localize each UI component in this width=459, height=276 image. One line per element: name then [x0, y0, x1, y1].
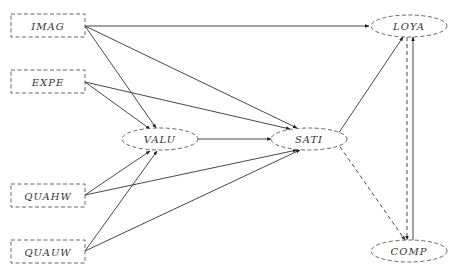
- node-label-comp: COMP: [391, 246, 428, 257]
- node-expe: EXPE: [11, 70, 85, 93]
- node-label-valu: VALU: [144, 134, 176, 145]
- node-valu: VALU: [122, 128, 198, 150]
- node-quahw: QUAHW: [11, 184, 85, 207]
- node-label-quahw: QUAHW: [24, 191, 72, 202]
- edge-imag-sati: [85, 26, 297, 128]
- node-sati: SATI: [271, 128, 347, 150]
- node-label-quauw: QUAUW: [24, 247, 71, 258]
- node-label-imag: IMAG: [30, 21, 64, 32]
- node-loya: LOYA: [371, 15, 447, 37]
- edge-sati-loya: [336, 37, 403, 137]
- edge-quauw-sati: [85, 150, 300, 251]
- node-comp: COMP: [371, 240, 447, 262]
- node-label-loya: LOYA: [392, 21, 425, 32]
- edge-quahw-sati: [85, 150, 297, 195]
- edge-imag-valu: [85, 26, 156, 128]
- node-label-sati: SATI: [295, 134, 323, 145]
- edge-sati-comp: [336, 141, 405, 240]
- edge-quauw-valu: [85, 151, 157, 251]
- edge-expe-sati: [85, 82, 290, 129]
- node-quauw: QUAUW: [11, 240, 85, 263]
- node-imag: IMAG: [11, 14, 85, 37]
- node-label-expe: EXPE: [31, 77, 64, 88]
- path-diagram: IMAG EXPE QUAHW QUAUW VALU SATI LOYA COM…: [0, 0, 459, 276]
